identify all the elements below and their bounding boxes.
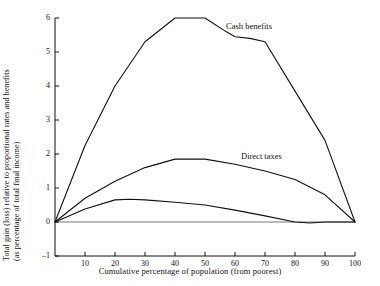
x-tick-label: 60 — [225, 259, 245, 268]
x-tick-label: 10 — [75, 259, 95, 268]
x-tick-label: 70 — [255, 259, 275, 268]
y-tick-label: 3 — [36, 115, 50, 124]
x-tick-label: 20 — [105, 259, 125, 268]
x-tick-label: 80 — [285, 259, 305, 268]
y-tick-label: 1 — [36, 183, 50, 192]
series-line-direct-taxes — [55, 159, 355, 222]
x-tick-label: 50 — [195, 259, 215, 268]
series-label-cash-benefits: Cash benefits — [226, 21, 272, 31]
chart-figure: Total gain (loss) relative to proportion… — [0, 0, 380, 286]
x-tick-label: 100 — [345, 259, 365, 268]
x-tick-label: 90 — [315, 259, 335, 268]
x-tick-label: 40 — [165, 259, 185, 268]
series-label-direct-taxes: Direct taxes — [241, 151, 282, 161]
y-tick-label: 5 — [36, 47, 50, 56]
series-line-unlabeled-2 — [55, 199, 355, 223]
y-tick-label: –1 — [36, 251, 50, 260]
x-tick-label: 30 — [135, 259, 155, 268]
y-tick-label: 0 — [36, 217, 50, 226]
plot-area — [0, 0, 380, 286]
y-tick-label: 4 — [36, 81, 50, 90]
y-tick-label: 2 — [36, 149, 50, 158]
series-line-cash-benefits — [55, 18, 355, 222]
y-tick-label: 6 — [36, 13, 50, 22]
